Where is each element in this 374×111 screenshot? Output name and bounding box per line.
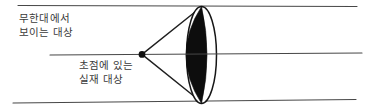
label-infinity-object: 무한대에서 보이는 대상 (19, 11, 73, 39)
label-infinity-object-line1: 무한대에서 (19, 11, 73, 25)
optics-figure: 무한대에서 보이는 대상 초점에 있는 실재 대상 (0, 0, 374, 111)
top-parallel-ray (18, 6, 357, 7)
lens-cross-section (186, 7, 207, 104)
label-infinity-object-line2: 보이는 대상 (19, 25, 73, 39)
label-focal-object: 초점에 있는 실재 대상 (79, 58, 133, 86)
bottom-parallel-ray (13, 100, 356, 104)
focal-point-dot (139, 51, 146, 58)
label-focal-object-line1: 초점에 있는 (79, 58, 133, 72)
label-focal-object-line2: 실재 대상 (79, 72, 133, 86)
